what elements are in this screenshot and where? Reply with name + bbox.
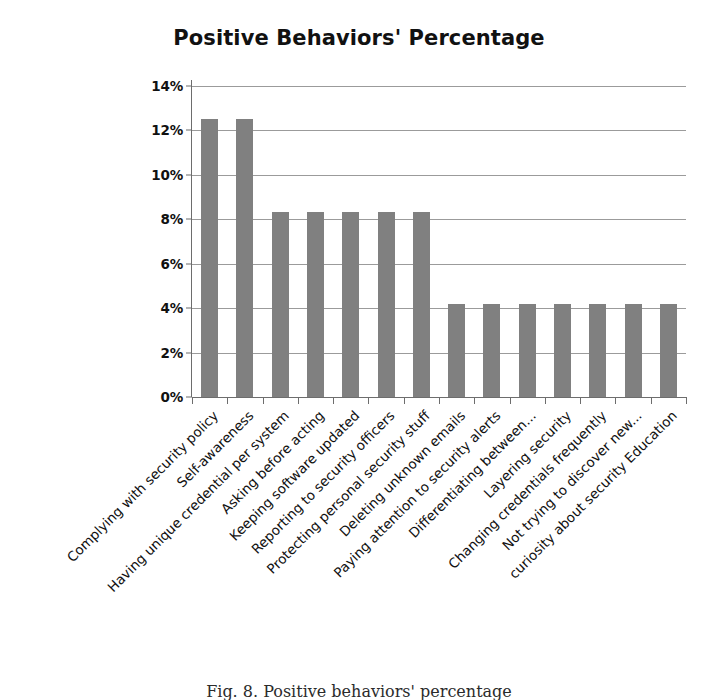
x-tick-mark [580,397,581,404]
y-tick-label: 4% [160,300,183,316]
x-tick-mark [439,397,440,404]
x-tick-mark [263,397,264,404]
bar [483,304,500,397]
figure-caption: Fig. 8. Positive behaviors' percentage [0,682,718,700]
bar [625,304,642,397]
bar [660,304,677,397]
x-tick-mark [474,397,475,404]
bar [554,304,571,397]
x-tick-mark [368,397,369,404]
figure-container: Positive Behaviors' Percentage 14%12%10%… [0,0,718,700]
x-tick-mark [192,397,193,404]
x-tick-mark [298,397,299,404]
x-tick-mark [404,397,405,404]
x-tick-mark [333,397,334,404]
x-tick-mark [510,397,511,404]
x-tick-mark [227,397,228,404]
x-tick-mark [615,397,616,404]
y-tick-label: 2% [160,345,183,361]
x-tick-mark [651,397,652,404]
x-tick-mark [545,397,546,404]
bar [519,304,536,397]
x-tick-mark [686,397,687,404]
y-tick-label: 0% [160,389,183,405]
x-axis-category-labels: Complying with security policySelf-aware… [0,0,718,260]
bar [589,304,606,397]
bar [448,304,465,397]
